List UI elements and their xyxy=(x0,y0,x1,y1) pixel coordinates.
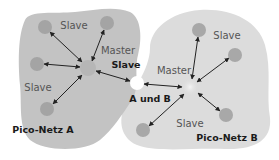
slave-node-a-1 xyxy=(38,20,52,34)
label-pico-netz-a: Pico-Netz A xyxy=(12,125,73,135)
slave-node-b-4 xyxy=(136,123,150,137)
shared-slave-node xyxy=(130,76,144,90)
label-a-slave-top: Slave xyxy=(60,21,87,31)
label-a-master: Master xyxy=(101,46,135,56)
label-a-slave-left: Slave xyxy=(24,83,51,93)
slave-node-a-3 xyxy=(30,57,44,71)
label-a-slave-shared: Slave xyxy=(111,60,140,70)
slave-node-a-2 xyxy=(100,16,114,30)
label-shared-node: A und B xyxy=(129,94,171,104)
master-node-b xyxy=(181,78,199,96)
label-b-master: Master xyxy=(157,66,191,76)
label-b-slave-bottom: Slave xyxy=(176,119,203,129)
slave-node-b-3 xyxy=(219,108,233,122)
master-node-a xyxy=(80,60,96,76)
label-pico-netz-b: Pico-Netz B xyxy=(196,133,257,143)
slave-node-b-1 xyxy=(192,23,206,37)
slave-node-a-4 xyxy=(40,102,54,116)
slave-node-b-2 xyxy=(228,48,242,62)
label-b-slave-top: Slave xyxy=(213,31,240,41)
